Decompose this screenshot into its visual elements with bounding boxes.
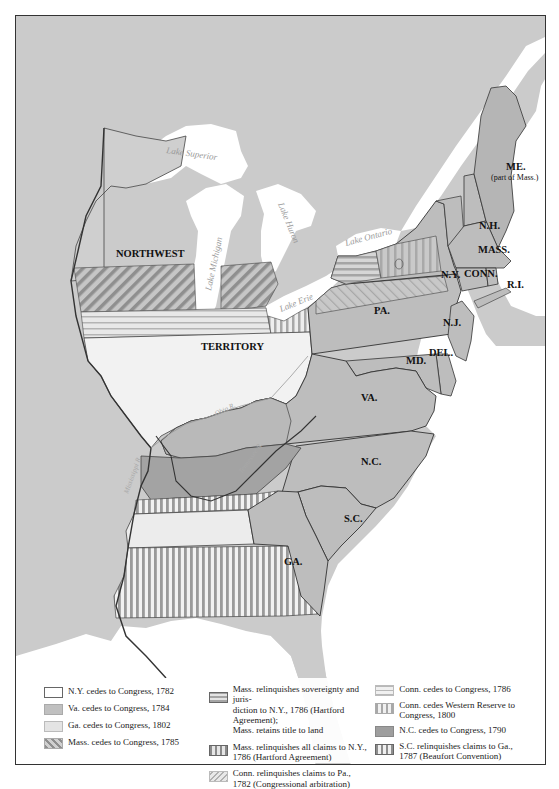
legend-item-sc-claims: S.C. relinquishes claims to Ga., 1787 (B… [375, 741, 532, 762]
legend-text: Mass. relinquishes all claims to N.Y., 1… [233, 742, 367, 763]
swatch-diagonal-hatch-icon [44, 738, 63, 749]
legend-item-nc-cession: N.C. cedes to Congress, 1790 [375, 725, 532, 737]
label-del: DEL. [429, 347, 454, 358]
label-northwest: NORTHWEST [116, 248, 184, 259]
legend-column-2: Mass. relinquishes sovereignty and juris… [209, 684, 376, 763]
legend-text: Ga. cedes to Congress, 1802 [68, 720, 170, 730]
legend-text: Conn. relinquishes claims to Pa., 1782 (… [233, 768, 351, 789]
label-mass: MASS. [478, 244, 510, 255]
label-me: ME. [506, 161, 526, 172]
legend-item-mass-ny-claims: Mass. relinquishes all claims to N.Y., 1… [209, 742, 376, 763]
legend-item-conn-cession: Conn. cedes to Congress, 1786 [375, 684, 532, 696]
mass-title-western-ny [331, 251, 381, 284]
legend-text: Mass. cedes to Congress, 1785 [68, 737, 179, 747]
legend-text: Conn. cedes to Congress, 1786 [399, 684, 511, 694]
swatch-vertical-light-icon [375, 703, 394, 714]
legend-item-ny-cession: N.Y. cedes to Congress, 1782 [44, 686, 209, 698]
ga-cession-1802 [126, 510, 254, 548]
swatch-light-gray-icon [44, 721, 63, 732]
label-va: VA. [361, 392, 378, 403]
label-me-sub: (part of Mass.) [491, 173, 539, 182]
label-nh: N.H. [479, 220, 500, 231]
swatch-mid-gray-icon [44, 704, 63, 715]
label-md: MD. [406, 355, 426, 366]
cessions-map: NORTHWEST TERRITORY ME. (part of Mass.) … [16, 16, 546, 765]
label-conn: CONN. [464, 268, 498, 279]
swatch-horizontal-stripes-icon [209, 692, 228, 703]
legend-item-va-cession: Va. cedes to Congress, 1784 [44, 703, 209, 715]
swatch-dark-gray-icon [375, 726, 394, 737]
label-nj: N.J. [443, 317, 461, 328]
swatch-diagonal-light-icon [209, 771, 228, 782]
legend-column-1: N.Y. cedes to Congress, 1782 Va. cedes t… [44, 684, 209, 763]
label-territory: TERRITORY [201, 341, 264, 352]
legend-column-3: Conn. cedes to Congress, 1786 Conn. cede… [375, 684, 532, 763]
label-nc: N.C. [361, 456, 382, 467]
map-legend: N.Y. cedes to Congress, 1782 Va. cedes t… [17, 678, 544, 763]
legend-text: Mass. relinquishes sovereignty and juris… [233, 684, 376, 736]
map-frame: NORTHWEST TERRITORY ME. (part of Mass.) … [15, 15, 546, 765]
label-sc: S.C. [344, 513, 363, 524]
legend-item-western-reserve: Conn. cedes Western Reserve to Congress,… [375, 700, 532, 721]
mass-cession-1785 [74, 264, 196, 312]
legend-item-mass-sovereignty: Mass. relinquishes sovereignty and juris… [209, 684, 376, 736]
legend-item-mass-cession: Mass. cedes to Congress, 1785 [44, 737, 209, 749]
legend-item-conn-pa-claims: Conn. relinquishes claims to Pa., 1782 (… [209, 768, 376, 789]
swatch-vertical-bold-icon [375, 744, 394, 755]
legend-text: Conn. cedes Western Reserve to Congress,… [399, 700, 515, 721]
legend-text: S.C. relinquishes claims to Ga., 1787 (B… [399, 741, 513, 762]
legend-text: Va. cedes to Congress, 1784 [68, 703, 169, 713]
label-ri: R.I. [507, 279, 524, 290]
swatch-solid-white-icon [44, 687, 63, 698]
legend-text: N.C. cedes to Congress, 1790 [399, 725, 506, 735]
legend-item-ga-cession: Ga. cedes to Congress, 1802 [44, 720, 209, 732]
label-ga: GA. [284, 556, 303, 567]
legend-text: N.Y. cedes to Congress, 1782 [68, 686, 174, 696]
swatch-vertical-stripes-icon [209, 745, 228, 756]
swatch-horizontal-light-icon [375, 685, 394, 696]
label-ny: N.Y. [441, 269, 461, 280]
label-pa: PA. [374, 305, 390, 316]
